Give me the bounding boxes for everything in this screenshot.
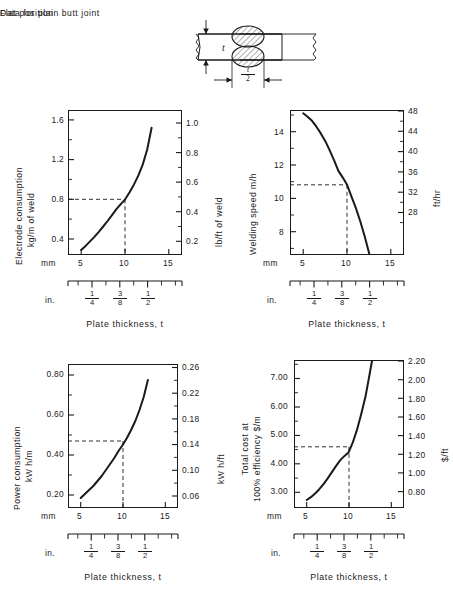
chart1-y2label: lb/ft of weld xyxy=(214,197,224,247)
chart1-ylabel-line1: Electrode consumption xyxy=(14,167,24,265)
chart4-y2tick-label-3: 1.40 xyxy=(408,431,426,441)
chart2-y2tick-label-4: 44 xyxy=(408,126,418,136)
chart4-y2tick-label-0: 0.80 xyxy=(408,487,426,497)
chart3-in-unit-label: in. xyxy=(45,548,55,558)
chart4-in-tick-1-den: 8 xyxy=(337,552,351,560)
chart3-ylabel-line1: Power consumption xyxy=(12,426,22,510)
chart3-mm-unit-label: mm xyxy=(41,511,56,521)
chart2-in-unit-label: in. xyxy=(267,295,277,305)
chart3-in-tick-1-den: 8 xyxy=(111,552,125,560)
chart2-in-tick-1-den: 8 xyxy=(335,299,349,307)
chart1-in-tick-1-den: 8 xyxy=(113,299,127,307)
chart3-y2label: kW h/ft xyxy=(216,454,226,484)
chart4-in-tick-0-den: 4 xyxy=(310,552,324,560)
chart2-xaxis-title: Plate thickness, t xyxy=(277,319,417,329)
chart1-y2tick-label-2: 0.6 xyxy=(186,177,199,187)
chart4-y2tick-label-2: 1.20 xyxy=(408,450,426,460)
chart2-mm-tick-15: 15 xyxy=(385,258,395,268)
chart1-mm-tick-15: 15 xyxy=(163,258,173,268)
chart4-axes-and-curve xyxy=(294,360,404,508)
chart4-y2label: $/ft xyxy=(440,448,450,462)
chart2-y2label: ft/hr xyxy=(432,190,442,207)
chart1-ytick-label-0: 0.4 xyxy=(34,234,64,244)
chart1-axes-and-curve xyxy=(68,110,182,255)
chart4-y2tick-label-6: 2.00 xyxy=(408,375,426,385)
chart4-ytick-label-4: 7.00 xyxy=(250,372,288,382)
chart1-in-tick-2-den: 2 xyxy=(141,299,155,307)
bead-width-fraction: t 2 xyxy=(241,66,255,83)
chart3-xaxis-title: Plate thickness, t xyxy=(53,572,193,582)
chart4-in-tick-1: 3 8 xyxy=(337,543,351,560)
chart3-y2tick-label-1: 0.10 xyxy=(182,465,200,475)
chart1-y2tick-label-1: 0.4 xyxy=(186,207,199,217)
chart3-mm-tick-10: 10 xyxy=(117,511,127,521)
chart1-in-tick-1: 3 8 xyxy=(113,290,127,307)
chart2-in-tick-0: 1 4 xyxy=(307,290,321,307)
weld-joint-drawing: t xyxy=(0,8,453,94)
chart1-mm-tick-5: 5 xyxy=(78,258,83,268)
figure-page: Data for plain butt joint Flat position xyxy=(0,0,453,589)
chart4-mm-tick-15: 15 xyxy=(386,511,396,521)
chart-welding-speed: Welding speed m/h ft/hr xyxy=(226,95,453,345)
chart3-y2tick-label-2: 0.14 xyxy=(182,439,200,449)
chart3-ytick-label-0: 0.20 xyxy=(26,489,64,499)
chart4-in-tick-2: 1 2 xyxy=(364,543,378,560)
chart2-y2tick-label-2: 36 xyxy=(408,167,418,177)
chart4-ytick-label-1: 4.00 xyxy=(250,458,288,468)
chart2-in-tick-2-den: 2 xyxy=(363,299,377,307)
chart3-in-tick-1: 3 8 xyxy=(111,543,125,560)
chart3-y2tick-label-5: 0.26 xyxy=(182,362,200,372)
chart2-axes-and-curve xyxy=(290,110,404,255)
chart4-y2tick-label-7: 2.20 xyxy=(408,356,426,366)
chart1-ytick-label-3: 1.6 xyxy=(34,115,64,125)
chart3-y2tick-label-3: 0.18 xyxy=(182,414,200,424)
chart4-mm-unit-label: mm xyxy=(267,511,282,521)
weld-joint-diagram: Data for plain butt joint Flat position xyxy=(0,8,453,94)
chart1-in-tick-0: 1 4 xyxy=(85,290,99,307)
chart3-ytick-label-1: 0.40 xyxy=(26,449,64,459)
chart3-in-tick-2: 1 2 xyxy=(138,543,152,560)
chart2-in-tick-2: 1 2 xyxy=(363,290,377,307)
chart-electrode-consumption: Electrode consumption kg/m of weld lb/ft… xyxy=(0,95,226,345)
chart4-ytick-label-0: 3.00 xyxy=(250,486,288,496)
chart3-mm-tick-15: 15 xyxy=(160,511,170,521)
chart4-y2tick-label-1: 1.00 xyxy=(408,468,426,478)
chart4-ytick-label-3: 6.00 xyxy=(250,401,288,411)
chart1-y2tick-label-3: 0.8 xyxy=(186,148,199,158)
chart4-mm-tick-5: 5 xyxy=(303,511,308,521)
chart4-y2tick-label-5: 1.80 xyxy=(408,394,426,404)
chart1-y2tick-label-0: 0.2 xyxy=(186,236,199,246)
chart4-ytick-label-2: 5.00 xyxy=(250,429,288,439)
chart3-axes-and-curve xyxy=(68,364,178,508)
chart1-in-tick-0-den: 4 xyxy=(85,299,99,307)
chart1-mm-tick-10: 10 xyxy=(119,258,129,268)
chart2-y2tick-label-0: 28 xyxy=(408,207,418,217)
chart-total-cost: Total cost at 100% efficiency $/m $/ft xyxy=(226,350,453,589)
chart2-ytick-label-1: 10 xyxy=(260,193,284,203)
chart1-mm-unit-label: mm xyxy=(41,258,56,268)
chart3-y2tick-label-4: 0.22 xyxy=(182,388,200,398)
chart1-in-unit-label: in. xyxy=(45,295,55,305)
chart2-ylabel-line1: Welding speed m/h xyxy=(248,173,258,255)
chart1-ytick-label-2: 1.2 xyxy=(34,154,64,164)
chart2-mm-tick-5: 5 xyxy=(300,258,305,268)
chart-power-consumption: Power consumption kW h/m kW h/ft xyxy=(0,350,226,589)
chart2-y2tick-label-1: 32 xyxy=(408,187,418,197)
chart1-y2tick-label-4: 1.0 xyxy=(186,118,199,128)
chart2-ytick-label-2: 12 xyxy=(260,160,284,170)
chart2-y2tick-label-5: 48 xyxy=(408,106,418,116)
chart3-y2tick-label-0: 0.06 xyxy=(182,491,200,501)
chart3-in-tick-2-den: 2 xyxy=(138,552,152,560)
chart4-in-tick-2-den: 2 xyxy=(364,552,378,560)
chart1-ytick-label-1: 0.8 xyxy=(34,194,64,204)
chart3-mm-tick-5: 5 xyxy=(77,511,82,521)
chart3-ytick-label-3: 0.80 xyxy=(26,369,64,379)
chart2-ytick-label-3: 14 xyxy=(260,127,284,137)
chart3-in-tick-0: 1 4 xyxy=(84,543,98,560)
bead-fraction-denominator: 2 xyxy=(241,75,255,83)
chart4-xaxis-title: Plate thickness, t xyxy=(279,572,419,582)
chart4-in-tick-0: 1 4 xyxy=(310,543,324,560)
chart4-mm-tick-10: 10 xyxy=(343,511,353,521)
chart2-ytick-label-0: 8 xyxy=(260,227,284,237)
chart3-ytick-label-2: 0.60 xyxy=(26,409,64,419)
